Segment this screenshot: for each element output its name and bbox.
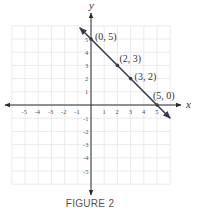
x-tick-label: 3 [129,108,132,115]
y-tick-label: -1 [83,115,88,122]
point-label: (5, 0) [153,90,175,102]
x-tick-label: 5 [155,108,158,115]
data-point [129,77,133,81]
y-axis-label: y [88,0,94,11]
y-tick-label: 2 [85,75,88,82]
point-label: (0, 5) [95,31,117,43]
figure-caption: FIGURE 2 [0,198,180,209]
y-tick-label: -5 [83,168,88,175]
y-tick-label: 3 [85,62,88,69]
data-point [89,37,93,41]
y-tick-label: -4 [83,154,89,161]
point-label: (3, 2) [135,71,157,83]
y-tick-label: -2 [83,128,88,135]
y-tick-label: -3 [83,141,88,148]
point-label: (2, 3) [119,53,141,65]
x-tick-label: -2 [61,108,66,115]
x-axis-label: x [185,98,191,110]
x-tick-label: -3 [48,108,53,115]
x-tick-label: -1 [74,108,79,115]
y-tick-label: 1 [85,88,88,95]
data-point [155,103,159,107]
x-tick-label: -5 [22,108,27,115]
x-tick-label: -4 [35,108,41,115]
x-tick-label: 4 [142,108,146,115]
coordinate-plane: xy-5-4-3-2-11234554321-1-2-3-4-5(0, 5)(2… [0,0,197,215]
x-tick-label: 2 [116,108,119,115]
x-tick-label: 1 [102,108,105,115]
